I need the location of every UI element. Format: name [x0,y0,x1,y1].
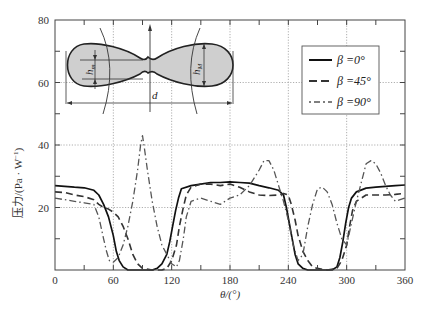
legend: β =0°β =45°β =90° [302,46,379,114]
legend-label: β =0° [336,53,365,67]
x-tick-label: 240 [280,274,297,286]
x-tick-label: 120 [163,274,180,286]
x-tick-labels: 060120180240300360 [52,274,414,286]
inset-schematic: hm hM d [66,24,233,114]
legend-label: β =90° [336,95,371,109]
y-tick-label: 60 [38,77,50,89]
series-line-0 [55,182,405,270]
x-tick-label: 360 [397,274,414,286]
x-tick-label: 60 [108,274,120,286]
y-tick-label: 40 [38,139,50,151]
y-tick-labels: 20406080 [38,14,50,214]
legend-label: β =45° [336,74,371,88]
pressure-vs-angle-chart: hm hM d 060120180240300360 20406080 θ/(°… [0,0,422,314]
x-tick-label: 180 [222,274,239,286]
y-axis-label: 压力/(Pa · W−1) [12,147,25,218]
y-tick-label: 80 [38,14,50,26]
d-label: d [152,89,158,101]
arrow-head-icon [148,24,152,31]
y-tick-label: 20 [38,202,50,214]
x-axis-label: θ/(°) [220,288,241,301]
x-tick-label: 300 [338,274,355,286]
x-tick-label: 0 [52,274,58,286]
